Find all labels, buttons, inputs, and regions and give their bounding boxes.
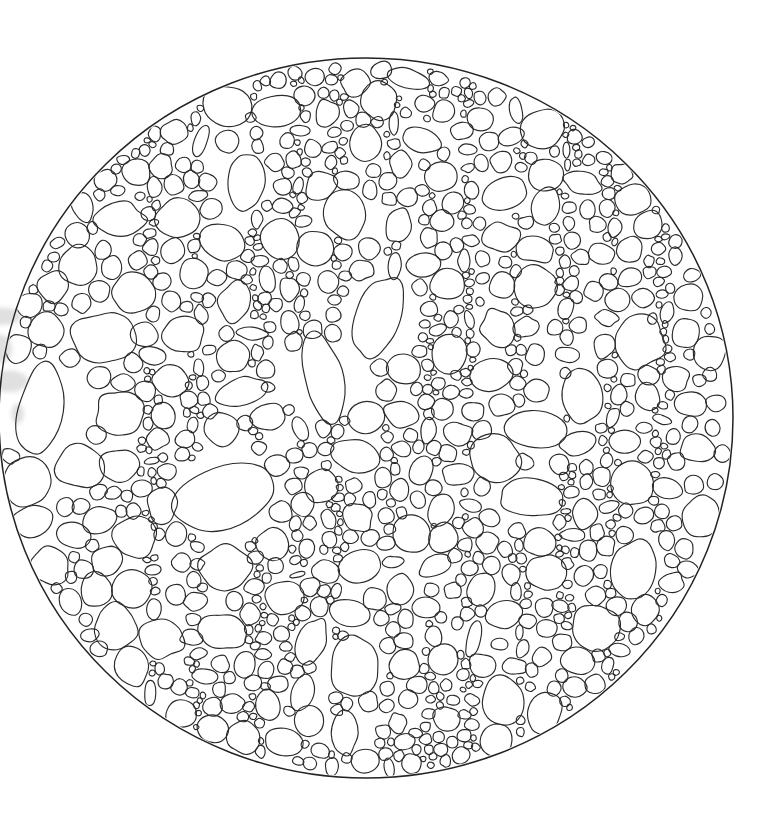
cross-section-drawing bbox=[0, 0, 761, 832]
scan-smudge-blob bbox=[11, 403, 23, 424]
paper-background bbox=[0, 0, 761, 832]
figure-canvas bbox=[0, 0, 761, 832]
